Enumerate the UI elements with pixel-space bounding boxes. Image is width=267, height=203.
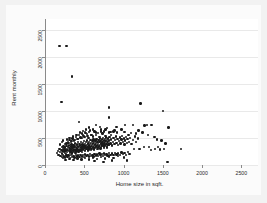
scatter-point: [130, 143, 132, 145]
y-axis-title: Rent monthly: [11, 58, 17, 118]
scatter-point: [150, 124, 152, 126]
y-tick-label-2: 1000: [37, 111, 43, 123]
x-tick-label-0: 0: [44, 170, 47, 176]
scatter-point: [167, 126, 169, 128]
scatter-point: [108, 116, 110, 118]
scatter-point: [111, 159, 113, 161]
y-tick-label-5: 2500: [37, 30, 43, 42]
scatter-points-layer: [46, 19, 258, 165]
x-tick-mark-1: [84, 165, 85, 168]
scatter-point: [68, 137, 70, 139]
x-tick-mark-4: [202, 165, 203, 168]
scatter-point: [146, 124, 148, 126]
scatter-point: [64, 159, 66, 161]
scatter-point: [135, 141, 137, 143]
scatter-point: [103, 130, 105, 132]
scatter-point: [64, 143, 66, 145]
scatter-point: [75, 134, 77, 136]
scatter-point: [138, 148, 140, 150]
scatter-point: [137, 137, 139, 139]
scatter-point: [95, 134, 97, 136]
scatter-point: [96, 148, 98, 150]
scatter-point: [148, 146, 150, 148]
gridline-y-0: [46, 165, 258, 166]
scatter-point: [96, 158, 98, 160]
scatter-point: [60, 101, 62, 103]
scatter-point: [160, 139, 162, 141]
scatter-point: [62, 139, 64, 141]
x-tick-mark-0: [45, 165, 46, 168]
x-tick-label-3: 1500: [157, 170, 169, 176]
scatter-point: [126, 159, 128, 161]
scatter-point: [74, 139, 76, 141]
scatter-point: [108, 155, 110, 157]
scatter-point: [130, 132, 132, 134]
scatter-point: [72, 135, 74, 137]
scatter-point: [156, 138, 158, 140]
scatter-point: [65, 45, 67, 47]
scatter-point: [180, 148, 182, 150]
scatter-point: [106, 146, 108, 148]
scatter-point: [124, 124, 126, 126]
scatter-point: [79, 131, 81, 133]
x-tick-label-5: 2500: [236, 170, 248, 176]
scatter-point: [139, 102, 141, 104]
scatter-point: [97, 132, 99, 134]
scatter-point: [166, 161, 168, 163]
scatter-point: [164, 142, 166, 144]
plot-area: [45, 19, 258, 166]
scatter-point: [107, 144, 109, 146]
scatter-point: [95, 124, 97, 126]
scatter-point: [110, 134, 112, 136]
scatter-point: [99, 147, 101, 149]
scatter-point: [76, 157, 78, 159]
scatter-point: [154, 148, 156, 150]
figure-container: 05001000150020002500 0500100015002000250…: [0, 0, 267, 203]
scatter-point: [108, 106, 110, 108]
scatter-point: [92, 156, 94, 158]
x-axis-title: Home size in sqft.: [6, 181, 267, 187]
scatter-point: [147, 134, 149, 136]
scatter-point: [80, 158, 82, 160]
scatter-point: [123, 156, 125, 158]
scatter-point: [132, 124, 134, 126]
scatter-point: [129, 137, 131, 139]
scatter-point: [134, 135, 136, 137]
scatter-point: [137, 129, 139, 131]
x-tick-mark-5: [241, 165, 242, 168]
figure-canvas: 05001000150020002500 0500100015002000250…: [6, 5, 261, 195]
scatter-point: [104, 157, 106, 159]
scatter-point: [112, 130, 114, 132]
x-tick-mark-2: [124, 165, 125, 168]
scatter-point: [103, 147, 105, 149]
y-tick-label-3: 1500: [37, 84, 43, 96]
scatter-point: [102, 161, 104, 163]
scatter-point: [93, 160, 95, 162]
x-tick-mark-3: [163, 165, 164, 168]
scatter-point: [92, 135, 94, 137]
y-tick-label-4: 2000: [37, 57, 43, 69]
x-tick-label-2: 1000: [118, 170, 130, 176]
scatter-point: [81, 151, 83, 153]
scatter-point: [123, 131, 125, 133]
scatter-point: [100, 128, 102, 130]
scatter-point: [84, 157, 86, 159]
scatter-point: [71, 152, 73, 154]
scatter-point: [133, 148, 135, 150]
scatter-point: [141, 131, 143, 133]
scatter-point: [98, 136, 100, 138]
scatter-point: [67, 142, 69, 144]
scatter-point: [100, 156, 102, 158]
scatter-point: [162, 110, 164, 112]
scatter-point: [58, 45, 60, 47]
scatter-point: [132, 139, 134, 141]
scatter-point: [159, 148, 161, 150]
scatter-point: [74, 152, 76, 154]
scatter-point: [87, 149, 89, 151]
scatter-point: [143, 146, 145, 148]
scatter-point: [128, 153, 130, 155]
scatter-point: [89, 129, 91, 131]
scatter-point: [78, 121, 80, 123]
scatter-point: [115, 126, 117, 128]
scatter-point: [72, 159, 74, 161]
